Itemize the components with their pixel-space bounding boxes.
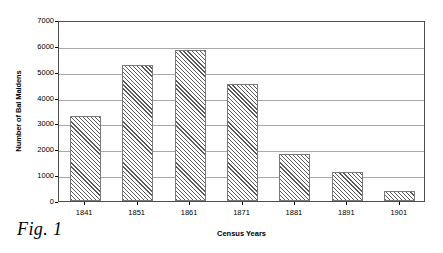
figure-caption: Fig. 1 [17, 219, 62, 240]
y-tick-label: 3000 [24, 120, 54, 128]
x-tick-mark [294, 202, 295, 205]
y-tick-label: 1000 [24, 172, 54, 180]
x-tick-label: 1891 [323, 208, 369, 217]
bar [384, 191, 415, 201]
x-axis-tick-labels: 1841185118611871188118911901 [58, 202, 425, 228]
bars-layer [59, 22, 424, 201]
x-tick-mark [399, 202, 400, 205]
x-tick-label: 1841 [61, 208, 107, 217]
x-tick-mark [84, 202, 85, 205]
x-tick-mark [242, 202, 243, 205]
x-tick-mark [189, 202, 190, 205]
bar [70, 116, 101, 201]
x-tick-label: 1871 [219, 208, 265, 217]
x-tick-mark [137, 202, 138, 205]
plot-area [58, 21, 425, 202]
x-tick-label: 1901 [376, 208, 422, 217]
x-tick-label: 1881 [271, 208, 317, 217]
y-tick-label: 7000 [24, 17, 54, 25]
y-tick-label: 6000 [24, 43, 54, 51]
y-tick-label: 4000 [24, 95, 54, 103]
bar [332, 172, 363, 201]
x-tick-label: 1861 [166, 208, 212, 217]
bar [175, 50, 206, 201]
y-tick-label: 0 [24, 198, 54, 206]
x-tick-mark [346, 202, 347, 205]
bar [227, 84, 258, 201]
x-axis-title: Census Years [58, 229, 425, 238]
y-tick-label: 2000 [24, 146, 54, 154]
y-axis-tick-labels: 01000200030004000500060007000 [24, 15, 54, 203]
bar [279, 154, 310, 201]
x-tick-label: 1851 [114, 208, 160, 217]
y-tick-label: 5000 [24, 69, 54, 77]
bar [122, 65, 153, 201]
figure-bal-maidens-bar-chart: Number of Bal Maidens 010002000300040005… [0, 0, 443, 253]
